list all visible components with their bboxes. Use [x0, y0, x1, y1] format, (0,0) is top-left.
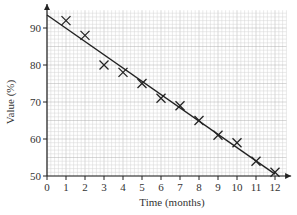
data-points: [62, 16, 280, 177]
svg-text:50: 50: [30, 170, 42, 182]
x-axis-ticks: 0123456789101112: [44, 176, 280, 193]
svg-text:70: 70: [30, 96, 42, 108]
svg-text:2: 2: [82, 181, 88, 193]
svg-text:60: 60: [30, 133, 42, 145]
svg-text:12: 12: [270, 181, 281, 193]
line-of-best-fit-chart: 0123456789101112 5060708090 Time (months…: [0, 0, 297, 215]
svg-text:90: 90: [30, 22, 42, 34]
svg-text:4: 4: [120, 181, 126, 193]
svg-text:8: 8: [196, 181, 202, 193]
y-axis-label: Value (%): [4, 80, 17, 125]
svg-text:3: 3: [101, 181, 107, 193]
svg-text:7: 7: [177, 181, 183, 193]
svg-text:10: 10: [232, 181, 244, 193]
svg-text:5: 5: [139, 181, 145, 193]
svg-text:6: 6: [158, 181, 164, 193]
grid: [47, 10, 286, 176]
svg-text:11: 11: [251, 181, 262, 193]
x-axis-label: Time (months): [139, 196, 205, 209]
svg-text:9: 9: [215, 181, 221, 193]
svg-text:1: 1: [63, 181, 69, 193]
svg-text:0: 0: [44, 181, 50, 193]
y-axis-ticks: 5060708090: [30, 22, 47, 182]
svg-text:80: 80: [30, 59, 42, 71]
